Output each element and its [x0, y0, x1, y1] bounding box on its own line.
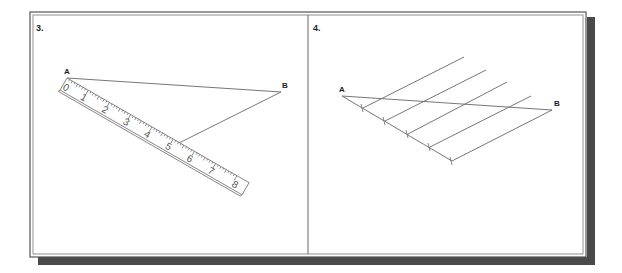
frame-shadow-bottom: [38, 257, 595, 265]
panel-4-point-a-label: A: [339, 85, 345, 94]
panel-4-point-b-label: B: [554, 99, 560, 108]
panel-3-number: 3.: [36, 23, 44, 33]
frame-shadow-right: [587, 17, 595, 265]
panel-3-point-a-label: A: [64, 67, 70, 76]
construction-diagram: 3. A B 0 1: [0, 0, 622, 273]
panel-4-number: 4.: [313, 23, 321, 33]
panel-3-point-b-label: B: [282, 81, 288, 90]
